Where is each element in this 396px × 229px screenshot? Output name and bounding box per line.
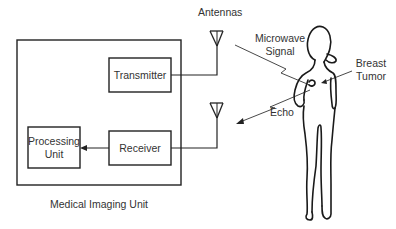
transmit-antenna-icon [210, 31, 223, 46]
processing-unit-label-line2: Unit [45, 148, 64, 161]
transmitter-antenna-wire [171, 45, 217, 75]
medical-imaging-diagram: Transmitter Receiver Processing Unit Med… [0, 0, 396, 229]
echo-label: Echo [270, 106, 294, 119]
diagram-canvas [0, 0, 396, 229]
breast-tumor-label: Breast Tumor [352, 57, 390, 83]
transmitter-label: Transmitter [109, 58, 171, 92]
receiver-antenna-wire [171, 117, 217, 148]
antennas-label: Antennas [198, 6, 242, 19]
microwave-signal-label: Microwave Signal [252, 32, 308, 58]
receive-antenna-icon [210, 103, 223, 118]
microwave-label-line1: Microwave [252, 32, 308, 45]
processing-unit-label: Processing Unit [28, 127, 80, 168]
processing-unit-label-line1: Processing [28, 135, 80, 148]
breast-tumor-label-line2: Tumor [352, 70, 390, 83]
microwave-label-line2: Signal [252, 45, 308, 58]
receiver-label: Receiver [109, 131, 171, 165]
receiver-to-processing-arrow [80, 145, 109, 151]
breast-tumor-label-line1: Breast [352, 57, 390, 70]
medical-imaging-unit-title: Medical Imaging Unit [17, 198, 181, 211]
